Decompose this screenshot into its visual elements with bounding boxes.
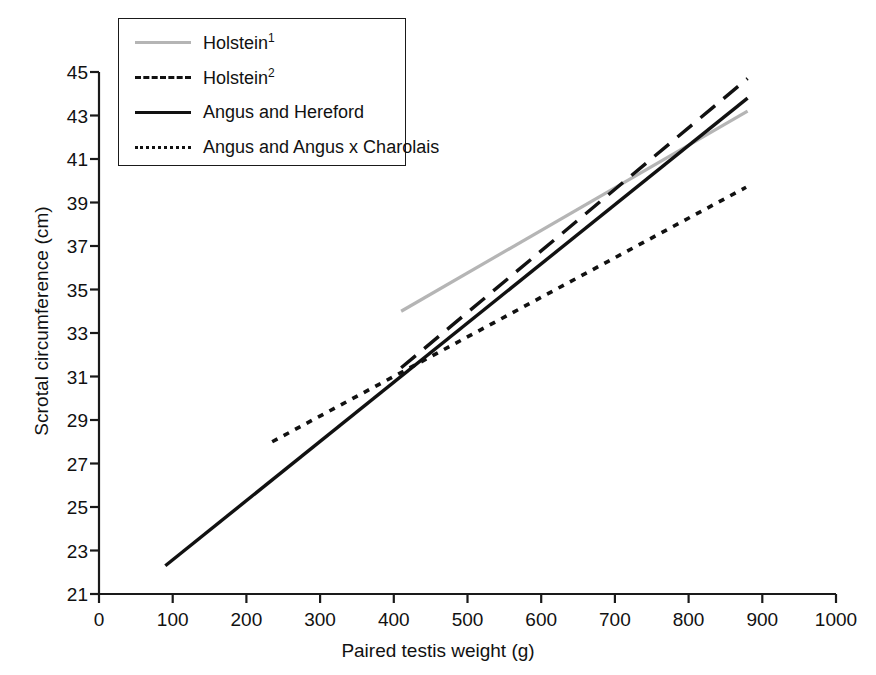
legend-item-label: Angus and Angus x Charolais: [203, 137, 439, 158]
legend-item-label: Holstein2: [203, 66, 275, 89]
legend-swatch-icon: [135, 106, 191, 120]
legend-item-label: Angus and Hereford: [203, 102, 364, 123]
chart-figure: Scrotal circumference (cm) Paired testis…: [0, 0, 876, 675]
chart-legend: Holstein1Holstein2Angus and HerefordAngu…: [118, 18, 406, 166]
series-line: [165, 98, 747, 566]
legend-item: Holstein2: [119, 60, 405, 95]
legend-item: Angus and Hereford: [119, 95, 405, 130]
legend-swatch-icon: [135, 71, 191, 85]
legend-swatch-icon: [135, 141, 191, 155]
series-line: [401, 79, 747, 368]
legend-swatch-icon: [135, 36, 191, 50]
legend-item: Angus and Angus x Charolais: [119, 130, 405, 165]
legend-item: Holstein1: [119, 25, 405, 60]
legend-item-label: Holstein1: [203, 31, 275, 54]
series-line: [272, 187, 746, 441]
